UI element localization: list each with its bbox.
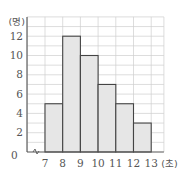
- y-tick-label: 2: [16, 126, 23, 138]
- x-tick-label: 8: [59, 157, 66, 169]
- y-tick-label: 8: [16, 68, 23, 80]
- y-tick-label: 10: [10, 49, 23, 61]
- x-tick-label: 13: [145, 157, 158, 169]
- histogram-bar: [45, 104, 63, 152]
- histogram-chart: 24681012 78910111213 0 (명) (초): [0, 0, 187, 176]
- x-tick-label: 11: [109, 157, 122, 169]
- y-tick-labels: 24681012: [10, 30, 24, 139]
- histogram-bar: [116, 104, 134, 152]
- y-axis-unit-label: (명): [9, 16, 25, 27]
- histogram-bar: [98, 84, 116, 152]
- x-tick-label: 12: [127, 157, 140, 169]
- y-tick-label: 4: [16, 107, 23, 119]
- x-tick-labels: 78910111213: [42, 157, 158, 169]
- x-axis-unit-label: (초): [161, 158, 177, 169]
- histogram-bar: [134, 123, 152, 152]
- histogram-bar: [63, 36, 81, 152]
- y-tick-label: 12: [10, 30, 23, 42]
- x-tick-label: 10: [91, 157, 104, 169]
- origin-label: 0: [11, 149, 18, 161]
- x-tick-label: 7: [42, 157, 49, 169]
- y-tick-label: 6: [16, 88, 23, 100]
- histogram-bar: [80, 56, 98, 153]
- x-tick-label: 9: [77, 157, 84, 169]
